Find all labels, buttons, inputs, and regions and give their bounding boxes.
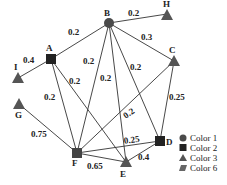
- weight-a-b: 0.2: [68, 27, 80, 37]
- node-a-square[interactable]: [46, 54, 56, 64]
- node-label-d: D: [166, 137, 173, 147]
- legend-parallelogram-icon: [179, 165, 187, 171]
- node-label-h: H: [163, 0, 170, 9]
- edge-b-c: [109, 23, 174, 61]
- edge-a-f: [51, 59, 77, 153]
- edge-b-f: [77, 23, 109, 153]
- weight-b-d: 0.2: [130, 62, 142, 72]
- node-label-g: G: [15, 110, 22, 120]
- weight-a-i: 0.4: [23, 55, 35, 65]
- node-c-triangle[interactable]: [168, 55, 180, 66]
- edge-a-e: [51, 59, 126, 162]
- weight-c-f: 0.2: [121, 106, 136, 121]
- node-label-e: E: [120, 169, 126, 179]
- legend-triangle-icon: [179, 154, 187, 161]
- legend-label-color-3: Color 3: [190, 153, 218, 163]
- legend: Color 1 Color 2 Color 3 Color 6: [179, 133, 218, 173]
- weight-b-e: 0.2: [100, 73, 112, 83]
- legend-label-color-1: Color 1: [190, 133, 217, 143]
- node-d-square[interactable]: [155, 136, 165, 146]
- node-g-triangle[interactable]: [13, 98, 25, 109]
- weight-e-d: 0.4: [138, 152, 150, 162]
- weight-b-h: 0.2: [128, 8, 140, 18]
- nodes: [12, 9, 180, 167]
- weight-a-e: 0.2: [69, 76, 81, 86]
- weight-g-f: 0.75: [31, 129, 47, 139]
- legend-label-color-2: Color 2: [190, 143, 217, 153]
- graph-diagram: 0.2 0.4 0.2 0.2 0.2 0.2 0.2 0.2 0.3 0.2 …: [0, 0, 227, 185]
- node-label-a: A: [46, 43, 53, 53]
- weight-b-f: 0.2: [83, 56, 95, 66]
- edge-a-b: [51, 23, 109, 59]
- node-label-c: C: [169, 45, 176, 55]
- edge-weights: 0.2 0.4 0.2 0.2 0.2 0.2 0.2 0.2 0.3 0.2 …: [23, 8, 185, 171]
- legend-square-icon: [180, 144, 187, 151]
- weight-a-f: 0.2: [44, 92, 56, 102]
- legend-circle-icon: [180, 135, 187, 142]
- node-label-i: I: [14, 62, 18, 72]
- weight-f-e: 0.65: [87, 161, 103, 171]
- node-b-circle[interactable]: [104, 18, 114, 28]
- node-f-square[interactable]: [72, 148, 82, 158]
- node-i-triangle[interactable]: [12, 72, 24, 83]
- node-label-f: F: [72, 158, 78, 168]
- weight-c-d: 0.25: [169, 92, 185, 102]
- weight-b-c: 0.3: [141, 32, 153, 42]
- edge-g-f: [19, 104, 77, 153]
- legend-label-color-6: Color 6: [190, 163, 218, 173]
- node-labels: A B C D E F G H I: [14, 0, 176, 179]
- node-label-b: B: [104, 8, 110, 18]
